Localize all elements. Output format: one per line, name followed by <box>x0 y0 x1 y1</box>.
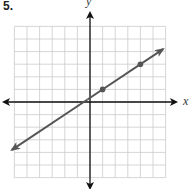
line-ray <box>12 99 88 149</box>
data-point <box>138 61 144 67</box>
coordinate-plane <box>0 0 190 189</box>
data-point <box>100 87 106 93</box>
line-ray <box>87 49 163 99</box>
